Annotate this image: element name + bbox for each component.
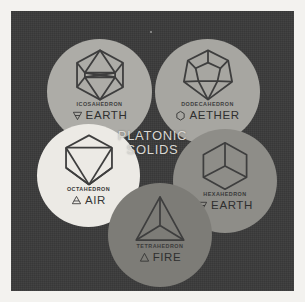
dodecahedron-wireframe-icon <box>180 48 236 102</box>
node-tetrahedron[interactable]: TETRAHEDRON FIRE <box>108 183 212 287</box>
element-row-tetrahedron: FIRE <box>139 252 182 264</box>
aether-alchemical-symbol-icon <box>175 110 186 121</box>
poster-title: PLATONIC SOLIDS <box>110 129 195 157</box>
element-row-octahedron: AIR <box>71 195 106 207</box>
solid-name-octahedron: OCTAHEDRON <box>67 187 110 192</box>
platonic-solids-poster: ICOSAHEDRON EARTH <box>11 11 294 291</box>
tetrahedron-wireframe-icon <box>133 194 187 244</box>
poster-title-line-1: PLATONIC <box>110 129 195 143</box>
solid-name-tetrahedron: TETRAHEDRON <box>137 244 184 249</box>
solid-name-dodecahedron: DODECAHEDRON <box>181 102 234 107</box>
element-row-dodecahedron: AETHER <box>175 110 239 122</box>
dust-speck <box>150 31 152 33</box>
icosahedron-wireframe-icon <box>72 48 128 102</box>
fire-alchemical-symbol-icon <box>139 252 150 263</box>
poster-title-line-2: SOLIDS <box>110 143 195 157</box>
element-name-icosahedron: EARTH <box>86 110 128 122</box>
element-name-hexahedron: EARTH <box>211 200 253 212</box>
element-row-icosahedron: EARTH <box>72 110 128 122</box>
element-name-tetrahedron: FIRE <box>153 252 182 264</box>
octahedron-wireframe-icon <box>61 133 117 187</box>
hexahedron-wireframe-icon <box>198 140 252 192</box>
air-alchemical-symbol-icon <box>71 195 82 206</box>
element-name-dodecahedron: AETHER <box>189 110 239 122</box>
element-name-octahedron: AIR <box>85 195 106 207</box>
solid-name-hexahedron: HEXAHEDRON <box>203 192 246 197</box>
earth-alchemical-symbol-icon <box>72 110 83 121</box>
solid-name-icosahedron: ICOSAHEDRON <box>77 102 123 107</box>
